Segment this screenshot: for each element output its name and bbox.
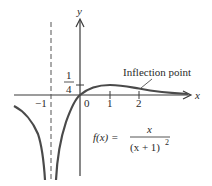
tick-label-quarter: 1 4 xyxy=(64,69,74,95)
svg-text:x: x xyxy=(146,123,152,135)
curve-right-branch xyxy=(56,85,188,180)
svg-text:f(x) =: f(x) = xyxy=(93,131,118,144)
function-graph: x y −1 0 1 2 1 4 Inflection point f(x) =… xyxy=(0,0,212,186)
tick-label-2: 2 xyxy=(136,97,142,109)
curve-left-branch xyxy=(14,106,45,180)
tick-label-0: 0 xyxy=(84,97,90,109)
tick-label-neg1: −1 xyxy=(35,97,47,109)
x-axis-label: x xyxy=(194,89,200,101)
tick-label-1: 1 xyxy=(107,97,113,109)
svg-text:2: 2 xyxy=(165,138,169,147)
svg-text:1: 1 xyxy=(66,69,72,81)
annotation-leader-line xyxy=(141,79,152,88)
function-formula: f(x) = x (x + 1) 2 xyxy=(93,123,170,154)
y-axis-label: y xyxy=(76,5,82,17)
svg-text:4: 4 xyxy=(66,83,72,95)
annotation-inflection-point: Inflection point xyxy=(123,66,191,78)
svg-text:(x + 1): (x + 1) xyxy=(130,141,160,154)
